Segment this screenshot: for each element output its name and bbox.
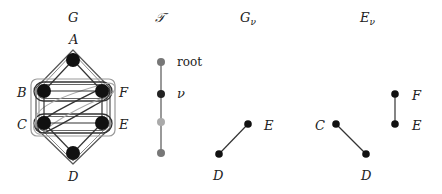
node-d (66, 146, 80, 160)
label-f: F (118, 85, 129, 100)
label-e: E (411, 118, 422, 133)
node-f (391, 90, 399, 98)
tree-node-4 (157, 149, 165, 157)
node-e (391, 120, 399, 128)
panel-g-nu-title: Gν (240, 10, 256, 27)
edge-c-d (336, 124, 366, 154)
panel-e-nu-title: Eν (359, 10, 376, 27)
panel-tree: 𝒯 root ν (155, 10, 202, 157)
panel-g-nu: Gν E D (212, 10, 274, 183)
bag-hull-inner (39, 53, 107, 161)
tree-node-root (157, 58, 165, 66)
tree-label-root: root (177, 55, 202, 69)
edge-d-e (219, 124, 248, 154)
node-e (95, 116, 109, 130)
diagram-svg: G A B F C E (0, 0, 442, 194)
node-b (37, 84, 51, 98)
node-c (332, 120, 340, 128)
node-d (362, 150, 370, 158)
label-d: D (360, 168, 372, 183)
label-e: E (263, 118, 274, 133)
label-b: B (16, 85, 27, 100)
node-f (95, 84, 109, 98)
panel-g: G A B F C E (16, 10, 129, 184)
figure: G A B F C E (0, 0, 442, 194)
node-e (244, 120, 252, 128)
panel-g-title: G (68, 10, 78, 25)
node-c (37, 116, 51, 130)
panel-e-nu: Eν F E C D (315, 10, 422, 183)
label-c: C (17, 117, 27, 132)
tree-node-nu (157, 90, 165, 98)
node-d (215, 150, 223, 158)
panel-tree-title: 𝒯 (155, 10, 169, 25)
label-c: C (315, 118, 325, 133)
label-f: F (411, 88, 422, 103)
node-a (66, 53, 80, 67)
label-d: D (67, 169, 79, 184)
tree-label-nu: ν (177, 86, 185, 101)
tree-node-3 (157, 118, 165, 126)
label-e: E (118, 117, 129, 132)
label-d: D (212, 168, 224, 183)
label-a: A (68, 32, 78, 47)
